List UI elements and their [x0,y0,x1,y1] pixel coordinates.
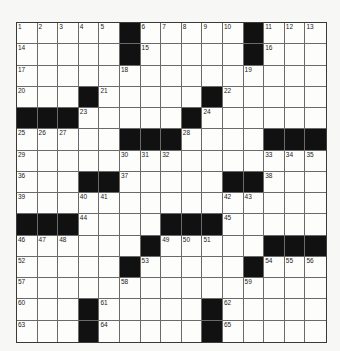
grid-cell[interactable]: 56 [305,257,326,278]
grid-cell[interactable] [264,278,285,299]
grid-cell[interactable] [305,87,326,108]
grid-cell[interactable] [161,87,182,108]
grid-cell[interactable] [182,66,203,87]
grid-cell[interactable] [79,236,100,257]
grid-cell[interactable]: 25 [17,129,38,150]
grid-cell[interactable] [244,129,265,150]
grid-cell[interactable]: 33 [264,151,285,172]
grid-cell[interactable]: 58 [120,278,141,299]
grid-cell[interactable] [161,108,182,129]
grid-cell[interactable] [264,214,285,235]
grid-cell[interactable] [161,257,182,278]
grid-cell[interactable] [182,299,203,320]
grid-cell[interactable]: 10 [223,23,244,44]
grid-cell[interactable] [305,299,326,320]
grid-cell[interactable] [141,193,162,214]
grid-cell[interactable] [223,278,244,299]
grid-cell[interactable]: 2 [38,23,59,44]
grid-cell[interactable]: 18 [120,66,141,87]
grid-cell[interactable] [244,108,265,129]
grid-cell[interactable] [285,172,306,193]
grid-cell[interactable]: 8 [182,23,203,44]
grid-cell[interactable]: 62 [223,299,244,320]
grid-cell[interactable]: 29 [17,151,38,172]
grid-cell[interactable] [141,66,162,87]
grid-cell[interactable]: 5 [99,23,120,44]
grid-cell[interactable]: 16 [264,44,285,65]
grid-cell[interactable] [182,44,203,65]
grid-cell[interactable]: 46 [17,236,38,257]
grid-cell[interactable]: 14 [17,44,38,65]
grid-cell[interactable] [285,214,306,235]
grid-cell[interactable]: 30 [120,151,141,172]
grid-cell[interactable]: 24 [202,108,223,129]
grid-cell[interactable]: 13 [305,23,326,44]
grid-cell[interactable] [58,193,79,214]
grid-cell[interactable]: 51 [202,236,223,257]
grid-cell[interactable]: 50 [182,236,203,257]
grid-cell[interactable] [99,66,120,87]
grid-cell[interactable] [223,151,244,172]
grid-cell[interactable] [99,108,120,129]
grid-cell[interactable] [202,193,223,214]
grid-cell[interactable] [244,299,265,320]
grid-cell[interactable]: 48 [58,236,79,257]
grid-cell[interactable] [244,214,265,235]
grid-cell[interactable] [38,87,59,108]
grid-cell[interactable]: 6 [141,23,162,44]
grid-cell[interactable]: 35 [305,151,326,172]
grid-cell[interactable] [264,299,285,320]
grid-cell[interactable]: 4 [79,23,100,44]
grid-cell[interactable]: 17 [17,66,38,87]
grid-cell[interactable]: 61 [99,299,120,320]
grid-cell[interactable]: 38 [264,172,285,193]
grid-cell[interactable]: 63 [17,321,38,342]
grid-cell[interactable] [58,87,79,108]
grid-cell[interactable] [182,278,203,299]
grid-cell[interactable] [141,172,162,193]
grid-cell[interactable] [264,108,285,129]
grid-cell[interactable]: 23 [79,108,100,129]
grid-cell[interactable] [99,278,120,299]
grid-cell[interactable] [38,151,59,172]
grid-cell[interactable] [285,87,306,108]
grid-cell[interactable]: 39 [17,193,38,214]
grid-cell[interactable] [285,193,306,214]
grid-cell[interactable]: 40 [79,193,100,214]
grid-cell[interactable] [285,66,306,87]
grid-cell[interactable] [182,151,203,172]
grid-cell[interactable] [38,193,59,214]
grid-cell[interactable]: 27 [58,129,79,150]
grid-cell[interactable] [202,151,223,172]
grid-cell[interactable] [58,299,79,320]
grid-cell[interactable] [38,66,59,87]
grid-cell[interactable] [120,193,141,214]
grid-cell[interactable] [305,172,326,193]
grid-cell[interactable]: 52 [17,257,38,278]
grid-cell[interactable] [38,299,59,320]
grid-cell[interactable]: 28 [182,129,203,150]
grid-cell[interactable] [161,299,182,320]
grid-cell[interactable]: 36 [17,172,38,193]
grid-cell[interactable] [79,151,100,172]
grid-cell[interactable] [120,321,141,342]
grid-cell[interactable] [202,278,223,299]
grid-cell[interactable] [161,44,182,65]
grid-cell[interactable] [244,151,265,172]
grid-cell[interactable] [120,87,141,108]
grid-cell[interactable] [244,236,265,257]
grid-cell[interactable]: 26 [38,129,59,150]
grid-cell[interactable] [58,321,79,342]
grid-cell[interactable]: 41 [99,193,120,214]
grid-cell[interactable] [58,278,79,299]
grid-cell[interactable] [305,44,326,65]
grid-cell[interactable] [58,44,79,65]
grid-cell[interactable] [79,278,100,299]
grid-cell[interactable]: 57 [17,278,38,299]
grid-cell[interactable] [79,66,100,87]
grid-cell[interactable]: 49 [161,236,182,257]
grid-cell[interactable] [285,299,306,320]
grid-cell[interactable] [202,172,223,193]
grid-cell[interactable] [99,44,120,65]
grid-cell[interactable] [202,44,223,65]
